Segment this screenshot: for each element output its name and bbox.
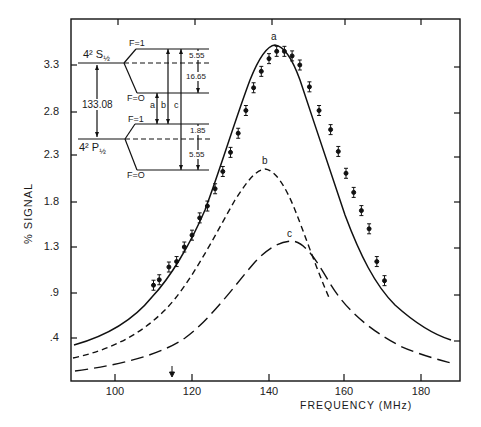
upper-f1-label: F=1 <box>129 38 145 48</box>
curve-c <box>75 241 451 371</box>
data-point <box>244 109 248 113</box>
lower-f0-label: F=O <box>127 170 145 180</box>
y-tick-0.4: .4 <box>29 331 59 343</box>
transition-a-label: a <box>150 100 155 110</box>
plot-frame <box>71 19 460 381</box>
top-ticks <box>118 19 421 25</box>
split-lower-1: 1.85 <box>190 126 206 135</box>
y-axis-label: % SIGNAL <box>22 183 34 244</box>
data-point <box>167 265 171 269</box>
data-point <box>182 245 186 249</box>
data-point <box>213 187 217 191</box>
data-point <box>275 49 279 53</box>
curve-a <box>74 45 451 345</box>
data-point <box>336 149 340 153</box>
y-tick-3.3: 3.3 <box>29 58 59 70</box>
data-point <box>367 227 371 231</box>
data-point <box>375 260 379 264</box>
upper-f0-label: F=O <box>127 93 145 103</box>
data-point <box>298 63 302 67</box>
data-point <box>236 131 240 135</box>
data-point <box>221 169 225 173</box>
arrow-marker <box>170 366 175 377</box>
lower-sub: ½ <box>99 147 106 156</box>
curve-label-b: b <box>262 155 268 166</box>
y-tick-2.3: 2.3 <box>29 148 59 160</box>
data-point <box>344 171 348 175</box>
x-tick-100: 100 <box>95 385 135 397</box>
chart-canvas <box>0 0 481 427</box>
upper-term: 4² S <box>83 48 103 60</box>
x-tick-140: 140 <box>249 385 289 397</box>
data-point <box>252 86 256 90</box>
x-tick-120: 120 <box>172 385 212 397</box>
upper-level-label: 4² S½ <box>83 48 110 63</box>
data-point <box>229 150 233 154</box>
x-tick-160: 160 <box>324 385 364 397</box>
data-point <box>307 85 311 89</box>
x-axis-ticks <box>115 374 421 381</box>
data-point <box>157 278 161 282</box>
data-point <box>198 216 202 220</box>
data-point <box>259 69 263 73</box>
data-point <box>175 260 179 264</box>
x-tick-180: 180 <box>401 385 441 397</box>
data-point <box>359 209 363 213</box>
right-ticks <box>454 67 460 341</box>
data-point <box>282 49 286 53</box>
y-tick-2.8: 2.8 <box>29 105 59 117</box>
split-upper-1: 5.55 <box>189 51 205 60</box>
x-axis-label: FREQUENCY (MHz) <box>300 399 412 411</box>
data-point <box>329 128 333 132</box>
data-point <box>383 279 387 283</box>
transition-b-label: b <box>161 100 166 110</box>
curve-label-c: c <box>287 228 292 239</box>
data-point <box>152 283 156 287</box>
y-axis-ticks <box>71 65 77 338</box>
separation-label: 133.08 <box>82 99 113 110</box>
curve-label-a: a <box>271 31 277 42</box>
data-point <box>267 57 271 61</box>
data-point <box>352 190 356 194</box>
data-point <box>205 204 209 208</box>
split-upper-2: 16.65 <box>186 72 206 81</box>
data-points-a <box>152 46 387 290</box>
lower-f1-label: F=1 <box>128 114 144 124</box>
lower-level-label: 4² P½ <box>79 141 106 156</box>
y-tick-0.9: .9 <box>29 286 59 298</box>
data-point <box>317 109 321 113</box>
upper-sub: ½ <box>103 54 110 63</box>
lower-term: 4² P <box>79 141 99 153</box>
data-point <box>190 233 194 237</box>
transition-c-label: c <box>174 100 179 110</box>
split-lower-2: 5.55 <box>189 150 205 159</box>
data-point <box>290 54 294 58</box>
